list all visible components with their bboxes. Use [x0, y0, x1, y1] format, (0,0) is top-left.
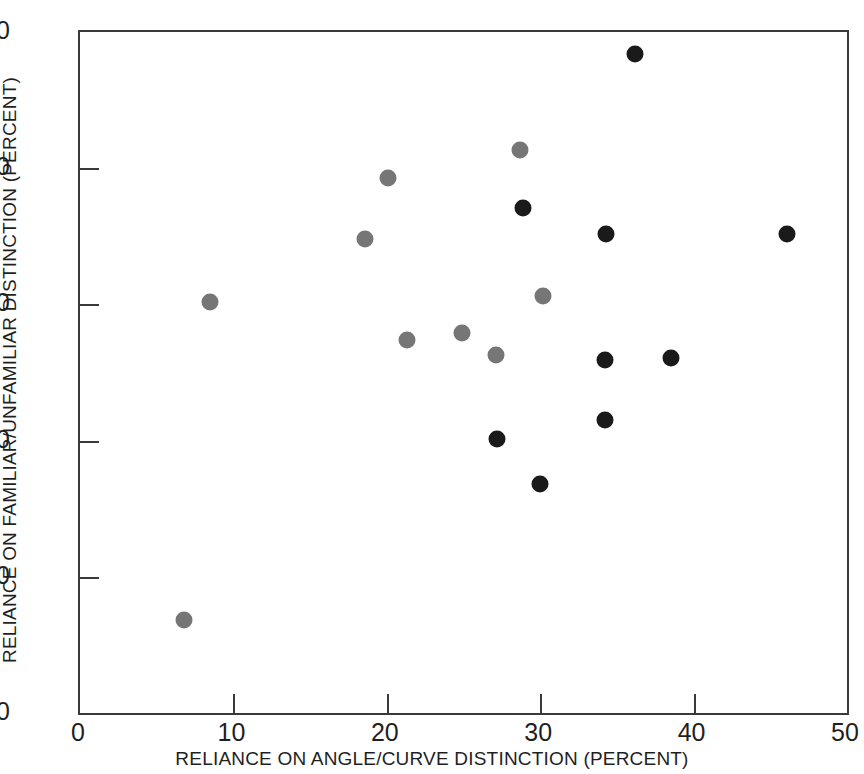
plot-area [78, 30, 849, 715]
data-point [662, 349, 679, 366]
data-point [532, 476, 549, 493]
x-axis-tick [540, 694, 542, 713]
data-point [598, 225, 615, 242]
y-axis-tick [80, 441, 99, 443]
data-point [487, 346, 504, 363]
data-point [357, 231, 374, 248]
data-points-layer [80, 32, 847, 713]
y-axis-tick [80, 304, 99, 306]
data-point [453, 325, 470, 342]
data-point [398, 331, 415, 348]
x-axis-tick [387, 694, 389, 713]
x-axis-label: RELIANCE ON ANGLE/CURVE DISTINCTION (PER… [0, 748, 864, 770]
scatter-plot-figure: 0102030405001020304050 RELIANCE ON ANGLE… [0, 0, 864, 774]
data-point [779, 225, 796, 242]
data-point [596, 412, 613, 429]
data-point [515, 199, 532, 216]
x-axis-tick [233, 694, 235, 713]
y-tick-label: 50 [0, 16, 10, 45]
data-point [489, 431, 506, 448]
data-point [176, 612, 193, 629]
x-tick-label: 0 [71, 718, 85, 747]
x-tick-label: 50 [831, 718, 859, 747]
data-point [535, 288, 552, 305]
x-tick-label: 40 [678, 718, 706, 747]
data-point [202, 293, 219, 310]
x-tick-label: 20 [371, 718, 399, 747]
y-tick-label: 0 [0, 697, 10, 726]
data-point [596, 352, 613, 369]
y-axis-label: RELIANCE ON FAMILIAR/UNFAMILIAR DISTINCT… [0, 77, 21, 663]
y-axis-tick [80, 577, 99, 579]
y-axis-tick [80, 168, 99, 170]
data-point [627, 45, 644, 62]
x-tick-label: 10 [217, 718, 245, 747]
x-tick-label: 30 [524, 718, 552, 747]
data-point [380, 169, 397, 186]
data-point [512, 142, 529, 159]
x-axis-tick [694, 694, 696, 713]
